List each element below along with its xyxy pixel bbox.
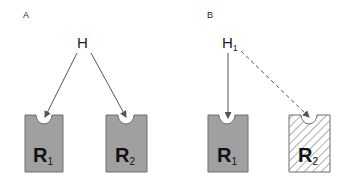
- panel-a: A H R1 R2: [23, 10, 147, 172]
- receptor-r1: R1: [208, 115, 248, 172]
- binding-arrow-r1: [45, 53, 77, 117]
- panel-label-b: B: [207, 10, 213, 20]
- binding-arrow-r2: [91, 53, 126, 117]
- receptor-r2: R2: [106, 115, 147, 172]
- ligand-label: H: [77, 34, 88, 51]
- diagram-canvas: A H R1 R2 B H1 R1 R2: [0, 0, 345, 185]
- panel-label-a: A: [23, 10, 29, 20]
- receptor-r2-hatched: R2: [289, 115, 330, 172]
- panel-b: B H1 R1 R2: [207, 10, 330, 172]
- ligand-label: H1: [222, 34, 238, 53]
- receptor-r1: R1: [25, 115, 63, 172]
- weak-binding-arrow-r2: [241, 51, 309, 117]
